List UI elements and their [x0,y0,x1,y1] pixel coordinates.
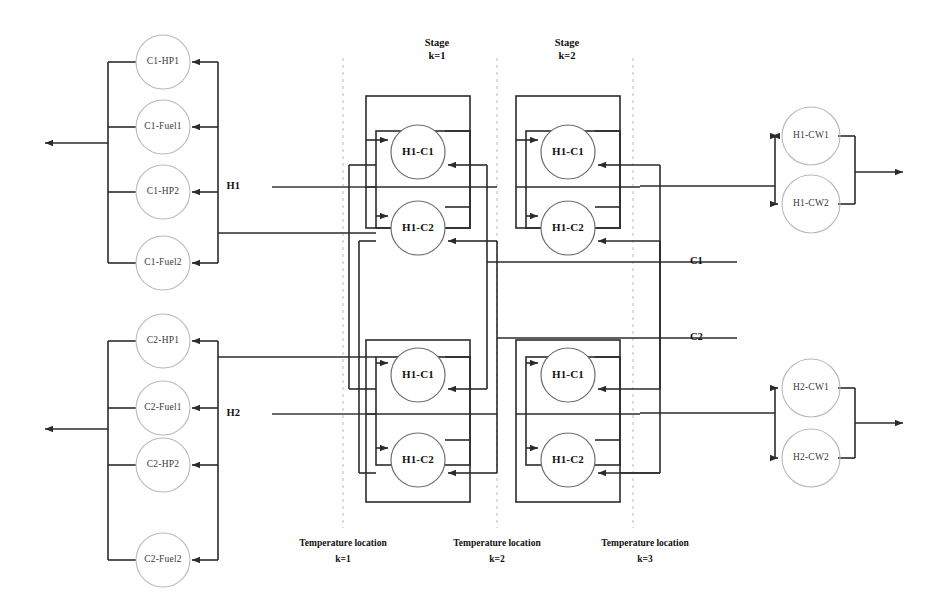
cooler-h2-cw2-label: H2-CW2 [793,452,829,462]
exchanger-h1-c2-stage1-label: H1-C2 [402,221,434,233]
utility-unit-c1-hp2-label: C1-HP2 [147,186,179,196]
temperature-location-3: Temperature location k=3 [601,538,689,564]
utility-unit-c2-fuel2-label: C2-Fuel2 [144,554,182,564]
hot-stream-h2-label: H2 [227,407,240,418]
cooler-h1-cw2-label: H1-CW2 [793,198,829,208]
exchanger-h2-c2-stage1-label: H1-C2 [402,453,434,465]
temperature-location-2: Temperature location k=2 [453,538,541,564]
stage-header-2-index: k=2 [558,50,575,61]
utility-unit-c1-fuel1-label: C1-Fuel1 [144,121,182,131]
temperature-location-3-title: Temperature location [601,538,689,548]
utility-unit-c2-hp1-label: C2-HP1 [147,335,179,345]
exchanger-h1-c2-stage2-label: H1-C2 [552,221,584,233]
stage-header-1: Stage k=1 [425,37,450,61]
temperature-location-2-index: k=2 [489,554,505,564]
cold-stream-c2-label: C2 [690,331,703,342]
stage2-hot2-block: H1-C1 H1-C2 [516,340,660,502]
exchanger-h2-c1-stage1-label: H1-C1 [402,368,434,380]
stage-header-2: Stage k=2 [555,37,580,61]
hot-stream-h1-inlet: H1 [227,180,376,191]
stage-header-2-title: Stage [555,37,580,48]
right-cooler-bank-h2: H2-CW1 H2-CW2 [640,359,903,487]
temperature-location-2-title: Temperature location [453,538,541,548]
left-utility-bank-c1: C1-HP1 C1-Fuel1 C1-HP2 C1-Fuel2 [45,35,218,290]
left-utility-bank-c2: C2-HP1 C2-Fuel1 C2-HP2 C2-Fuel2 [45,314,218,587]
utility-unit-c1-hp1-label: C1-HP1 [147,56,179,66]
hot-stream-h1-label: H1 [227,180,240,191]
temperature-location-1: Temperature location k=1 [299,538,387,564]
temperature-location-1-title: Temperature location [299,538,387,548]
cooler-h2-cw1-label: H2-CW1 [793,382,829,392]
exchanger-h2-c2-stage2-label: H1-C2 [552,453,584,465]
stage1-hot2-block: H1-C1 H1-C2 [366,340,497,502]
stage1-hot1-block: H1-C1 H1-C2 [366,96,497,255]
stage2-hot1-block: H1-C1 H1-C2 [516,96,660,255]
temperature-location-1-index: k=1 [335,554,351,564]
heat-exchanger-network-diagram: Stage k=1 Stage k=2 C1-HP1 C1-Fuel1 C1-H… [0,0,945,608]
stage-header-1-index: k=1 [428,50,445,61]
utility-unit-c2-hp2-label: C2-HP2 [147,459,179,469]
exchanger-h1-c1-stage1-label: H1-C1 [402,145,434,157]
cooler-h1-cw1-label: H1-CW1 [793,130,829,140]
temperature-location-3-index: k=3 [637,554,653,564]
exchanger-h1-c1-stage2-label: H1-C1 [552,145,584,157]
hot-stream-h2-inlet: H2 [227,407,376,418]
right-cooler-bank-h1: H1-CW1 H1-CW2 [640,107,903,233]
utility-unit-c2-fuel1-label: C2-Fuel1 [144,402,182,412]
utility-unit-c1-fuel2-label: C1-Fuel2 [144,257,182,267]
stage-header-1-title: Stage [425,37,450,48]
exchanger-h2-c1-stage2-label: H1-C1 [552,368,584,380]
cold-stream-c1-label: C1 [690,255,703,266]
